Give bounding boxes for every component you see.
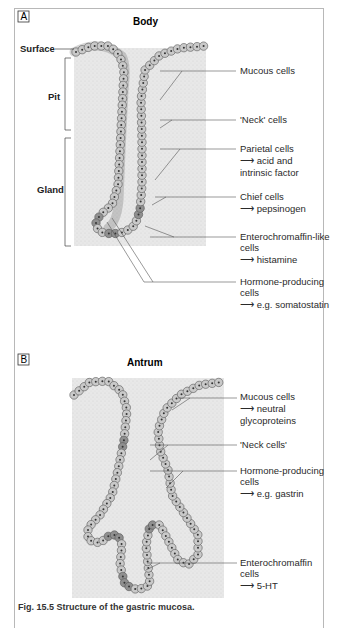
label-hormone-cells2-b: cells	[240, 476, 259, 487]
label-hormone-cells: Hormone-producing	[240, 276, 324, 287]
arrow-icon: ⟶	[240, 254, 254, 265]
panel-b-title: Antrum	[127, 357, 163, 368]
svg-text:⟶ e.g. gastrin: ⟶ e.g. gastrin	[240, 488, 304, 499]
label-mucous-cells-b: Mucous cells	[240, 391, 295, 402]
label-chief-cells: Chief cells	[240, 191, 284, 202]
panel-a-title: Body	[133, 16, 158, 27]
pit-bracket	[65, 58, 71, 130]
svg-text:⟶ pepsinogen: ⟶ pepsinogen	[240, 203, 306, 214]
panel-b-letter: B	[21, 354, 28, 365]
label-hormone-cells-b: Hormone-producing	[240, 465, 324, 476]
svg-text:⟶ histamine: ⟶ histamine	[240, 254, 297, 265]
panel-b: B Antrum Mucous cells ⟶ neutral glycopro…	[18, 354, 324, 598]
label-ecl-cells2: cells	[240, 242, 259, 253]
label-hormone-product-b: e.g. gastrin	[257, 488, 304, 499]
labels-b: Mucous cells ⟶ neutral glycoproteins 'Ne…	[240, 391, 324, 591]
svg-text:⟶ neutral: ⟶ neutral	[240, 403, 286, 414]
label-parietal-product2: intrinsic factor	[240, 167, 299, 178]
arrow-icon: ⟶	[240, 203, 254, 214]
svg-text:⟶ 5-HT: ⟶ 5-HT	[240, 580, 278, 591]
label-parietal-cells: Parietal cells	[240, 143, 294, 154]
arrow-icon: ⟶	[240, 403, 254, 414]
arrow-icon: ⟶	[240, 299, 254, 310]
label-neck-cells: 'Neck' cells	[240, 114, 287, 125]
panel-a: A Body Surface Pit Gland	[18, 11, 330, 310]
label-chief-product: pepsinogen	[257, 203, 306, 214]
arrow-icon: ⟶	[240, 155, 254, 166]
label-parietal-product: acid and	[257, 155, 293, 166]
labels-a: Mucous cells 'Neck' cells Parietal cells…	[240, 65, 330, 310]
label-ec-cells2-b: cells	[240, 568, 259, 579]
label-ecl-cells: Enterochromaffin-like	[240, 231, 330, 242]
label-gland: Gland	[37, 184, 64, 195]
label-pit: Pit	[48, 91, 61, 102]
gland-bracket	[65, 138, 71, 246]
arrow-icon: ⟶	[240, 488, 254, 499]
label-hormone-product: e.g. somatostatin	[257, 299, 329, 310]
figure-caption: Fig. 15.5 Structure of the gastric mucos…	[18, 602, 195, 612]
panel-a-letter: A	[21, 11, 28, 22]
label-mucous-product2-b: glycoproteins	[240, 415, 296, 426]
label-mucous-cells: Mucous cells	[240, 65, 295, 76]
label-hormone-cells2: cells	[240, 287, 259, 298]
label-ec-product-b: 5-HT	[257, 580, 278, 591]
label-ec-cells-b: Enterochromaffin	[240, 557, 312, 568]
label-ecl-product: histamine	[257, 254, 298, 265]
label-mucous-product-b: neutral	[257, 403, 286, 414]
label-neck-cells-b: 'Neck cells'	[240, 439, 287, 450]
arrow-icon: ⟶	[240, 580, 254, 591]
label-surface: Surface	[20, 43, 55, 54]
svg-text:⟶ acid and: ⟶ acid and	[240, 155, 293, 166]
svg-text:⟶ e.g. somatostatin: ⟶ e.g. somatostatin	[240, 299, 329, 310]
